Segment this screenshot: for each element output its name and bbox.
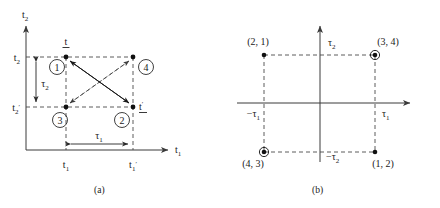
panel-a-x-axis-label: t1 <box>175 144 182 158</box>
panel-a-ytick-bottom: t2′ <box>12 102 20 116</box>
panel-b-x-axis-label: τ1 <box>382 108 390 122</box>
panel-b-point-label-2-1: (2, 1) <box>247 36 269 48</box>
panel-a-vertex-4-dot <box>131 55 136 60</box>
panel-a-point-label-t-prime: t′ <box>139 100 144 112</box>
panel-a-vertex-number-4: 4 <box>144 62 149 73</box>
panel-b-y-axis-label: τ2 <box>328 37 336 51</box>
panel-a-tau1-label: τ1 <box>95 130 103 144</box>
panel-a-ytick-top: t2 <box>14 52 21 66</box>
panel-a-tau2-label: τ2 <box>41 78 49 92</box>
panel-a-xtick-left: t1 <box>63 159 70 173</box>
panel-b-x-axis-neg-label: −τ1 <box>247 108 261 122</box>
panel-b-point-label-3-4: (3, 4) <box>377 36 399 48</box>
panel-b-caption: (b) <box>312 185 323 195</box>
panel-a-diagram: 1 4 3 2 t t′ t1 t2 t2 t2′ t1 t1′ τ2 τ1 <box>0 0 220 180</box>
panel-a-vertex-number-3: 3 <box>58 115 63 126</box>
panel-b-diagram: (2, 1) (3, 4) (4, 3) (1, 2) τ1 τ2 −τ1 −τ… <box>220 0 440 180</box>
panel-b-point-1-2-dot <box>373 150 378 155</box>
panel-a-vertex-number-1: 1 <box>55 62 60 73</box>
panel-a-vertex-1-dot <box>64 55 69 60</box>
panel-a-y-axis-label: t2 <box>22 9 29 23</box>
panel-a-vertex-3-dot <box>64 105 69 110</box>
panel-a-vertex-2-dot <box>131 105 136 110</box>
panel-b-point-2-1-dot <box>262 53 267 58</box>
panel-b-point-label-1-2: (1, 2) <box>372 158 394 170</box>
panel-b-point-4-3-dot <box>262 150 267 155</box>
panel-a-vertex-number-2: 2 <box>120 115 125 126</box>
panel-a-caption: (a) <box>94 185 105 195</box>
panel-b-y-axis-neg-label: −τ2 <box>326 151 340 165</box>
figure-container: 1 4 3 2 t t′ t1 t2 t2 t2′ t1 t1′ τ2 τ1 <box>0 0 440 208</box>
panel-b-point-label-4-3: (4, 3) <box>242 158 264 170</box>
panel-a-xtick-right: t1′ <box>129 159 137 173</box>
panel-b-point-3-4-dot <box>373 53 378 58</box>
panel-a-point-label-t: t <box>65 36 68 47</box>
